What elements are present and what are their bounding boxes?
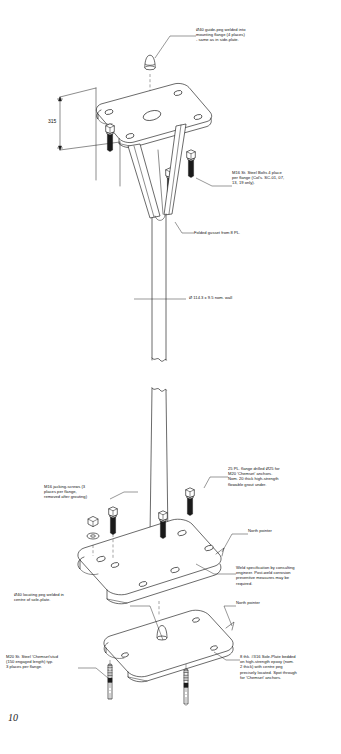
note-gusset: Folded gusset from 8 PL.: [194, 230, 334, 235]
guide-peg-exploded: [145, 55, 155, 70]
jacking-screw-assembly: [109, 507, 118, 535]
leader-north-lower: [224, 606, 236, 626]
note-jacking-screws: M16 jacking-screws (3 places per flange,…: [44, 484, 140, 500]
note-bolts: M16 St. Steel Bolts 4 place per flange (…: [232, 170, 340, 186]
leader-guide-peg: [155, 36, 196, 58]
north-pointer-arrow-lower: [226, 622, 234, 630]
note-weld-spec: Weld specification by consulting enginee…: [236, 565, 340, 586]
note-north-pointer-upper: North pointer: [248, 528, 340, 533]
drawing-canvas: .ln { fill:none; stroke:#1a1a1a; stroke-…: [0, 0, 341, 754]
top-mounting-flange-assembly: [96, 55, 211, 360]
note-north-pointer-lower: North pointer: [236, 600, 328, 605]
note-base-flange: 25 PL. flange drilled Ø25 for M20 'Chems…: [228, 466, 340, 487]
gusset-fold-line: [158, 150, 163, 214]
sole-plate-top-face: [104, 610, 233, 677]
jacking-screw-washer: [87, 533, 99, 539]
dimension-label-315: 315: [48, 118, 56, 124]
leader-bolts: [196, 178, 232, 186]
leader-base-flange: [204, 477, 228, 488]
column-break-line: [152, 358, 166, 391]
flange-bolt-1: [106, 124, 115, 152]
leader-gusset: [175, 222, 194, 233]
column-pipe-lower-left: [150, 388, 152, 537]
flange-bolt-2: [187, 150, 196, 178]
page-number: 10: [8, 712, 18, 723]
note-pipe-size: Ø 114.3 x 9.5 nom. wall: [189, 295, 329, 300]
jacking-screw-nut: [88, 516, 98, 526]
anchor-bolt-1: [186, 488, 195, 516]
note-guide-peg: Ø40 guide-peg welded into mounting flang…: [196, 27, 338, 43]
leader-north-upper: [222, 534, 248, 552]
note-sole-plate: 8 thk. #316 Sole-Plate bedded on high-st…: [240, 654, 340, 680]
note-locating-peg: Ø40 locating peg welded in centre of sol…: [14, 592, 124, 602]
note-chemset-stud: M20 St. Steel 'Chemset'stud (150 engaged…: [6, 654, 110, 670]
technical-drawing-sheet: .ln { fill:none; stroke:#1a1a1a; stroke-…: [0, 0, 341, 754]
